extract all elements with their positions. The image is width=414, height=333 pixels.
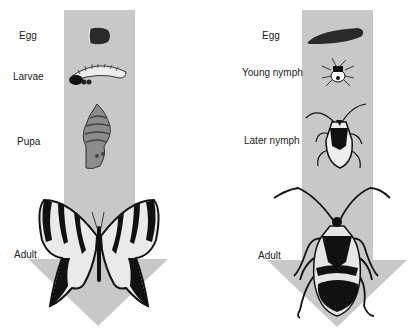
left-stage-label-larvae: Larvae — [13, 71, 44, 82]
left-stage-label-pupa: Pupa — [17, 136, 40, 147]
right-stage-label-young-nymph: Young nymph — [242, 67, 303, 78]
right-stage-label-later-nymph: Later nymph — [244, 135, 300, 146]
left-stage-label-adult: Adult — [14, 249, 37, 260]
left-stage-label-egg: Egg — [19, 30, 37, 41]
butterfly-egg-icon — [89, 28, 110, 45]
right-stage-label-egg: Egg — [262, 30, 280, 41]
right-stage-label-adult: Adult — [258, 250, 281, 261]
life-cycle-diagram — [0, 0, 414, 333]
